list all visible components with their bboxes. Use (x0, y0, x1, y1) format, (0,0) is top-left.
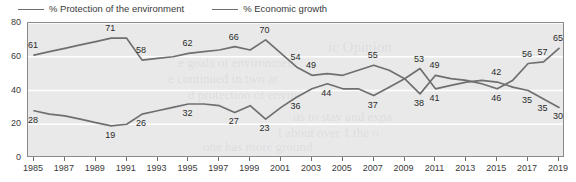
data-point-label: 49 (306, 60, 316, 70)
x-tick-mark (465, 157, 466, 161)
x-tick-mark (33, 157, 34, 161)
data-point-label: 41 (429, 93, 439, 103)
x-tick-label: 2009 (394, 163, 414, 173)
data-point-label: 36 (290, 101, 300, 111)
y-tick-label: 60 (11, 51, 21, 61)
x-tick-mark (280, 157, 281, 161)
x-tick-label: 1993 (147, 163, 167, 173)
data-point-label: 54 (290, 52, 300, 62)
data-point-label: 57 (538, 47, 548, 57)
x-tick-mark (342, 157, 343, 161)
data-point-label: 66 (229, 32, 239, 42)
x-tick-label: 2003 (301, 163, 321, 173)
data-point-label: 23 (260, 123, 270, 133)
x-tick-label: 1991 (116, 163, 136, 173)
data-point-label: 27 (229, 116, 239, 126)
data-point-label: 37 (368, 100, 378, 110)
x-tick-label: 2015 (486, 163, 506, 173)
data-point-label: 56 (522, 49, 532, 59)
y-tick-label: 0 (16, 152, 21, 162)
series-line-protection-of-the-environment (34, 38, 559, 94)
x-tick-label: 2001 (270, 163, 290, 173)
x-tick-mark (434, 157, 435, 161)
x-tick-mark (64, 157, 65, 161)
data-point-label: 65 (553, 33, 563, 43)
data-point-label: 55 (368, 50, 378, 60)
data-point-label: 19 (105, 130, 115, 140)
data-point-label: 42 (491, 67, 501, 77)
data-point-label: 71 (105, 23, 115, 33)
legend-label: % Economic growth (243, 4, 327, 14)
data-point-label: 61 (28, 40, 38, 50)
y-tick-label: 20 (11, 118, 21, 128)
x-tick-mark (157, 157, 158, 161)
x-tick-label: 2017 (517, 163, 537, 173)
data-point-label: 26 (136, 118, 146, 128)
data-point-label: 53 (414, 54, 424, 64)
x-tick-label: 2019 (548, 163, 568, 173)
data-point-label: 30 (553, 111, 563, 121)
x-tick-label: 2011 (425, 163, 444, 173)
data-point-label: 70 (260, 25, 270, 35)
y-tick-label: 40 (11, 85, 21, 95)
x-tick-mark (527, 157, 528, 161)
x-tick-label: 1989 (85, 163, 105, 173)
data-point-label: 46 (491, 93, 501, 103)
data-point-label: 38 (414, 98, 424, 108)
data-point-label: 44 (321, 88, 331, 98)
x-tick-mark (218, 157, 219, 161)
chart-legend: % Protection of the environment % Econom… (0, 0, 576, 18)
legend-line-swatch-icon (212, 9, 238, 10)
x-tick-mark (311, 157, 312, 161)
data-point-label: 28 (28, 115, 38, 125)
x-tick-label: 2005 (332, 163, 352, 173)
x-tick-mark (249, 157, 250, 161)
data-point-label: 35 (538, 103, 548, 113)
legend-item-economic-growth: % Economic growth (212, 4, 327, 14)
x-tick-label: 2007 (363, 163, 383, 173)
x-tick-label: 1999 (239, 163, 259, 173)
x-axis: 1985198719891991199319951997199920012003… (27, 157, 564, 182)
legend-label: % Protection of the environment (49, 4, 184, 14)
series-line-economic-growth (34, 69, 559, 126)
line-chart-figure: % Protection of the environment % Econom… (0, 0, 576, 182)
x-tick-mark (95, 157, 96, 161)
data-point-label: 62 (182, 38, 192, 48)
x-tick-mark (404, 157, 405, 161)
y-tick-label: 80 (11, 17, 21, 27)
x-tick-label: 1997 (208, 163, 228, 173)
x-tick-mark (126, 157, 127, 161)
data-point-label: 49 (429, 60, 439, 70)
x-tick-label: 1987 (54, 163, 74, 173)
x-tick-mark (187, 157, 188, 161)
x-tick-mark (373, 157, 374, 161)
x-tick-label: 1995 (177, 163, 197, 173)
y-axis: 020406080 (0, 0, 27, 182)
x-tick-label: 2013 (455, 163, 475, 173)
data-point-label: 32 (182, 108, 192, 118)
legend-item-protection-of-the-environment: % Protection of the environment (18, 4, 184, 14)
x-tick-mark (496, 157, 497, 161)
x-tick-label: 1985 (23, 163, 43, 173)
data-point-label: 35 (522, 95, 532, 105)
data-point-label: 58 (136, 45, 146, 55)
x-tick-mark (558, 157, 559, 161)
